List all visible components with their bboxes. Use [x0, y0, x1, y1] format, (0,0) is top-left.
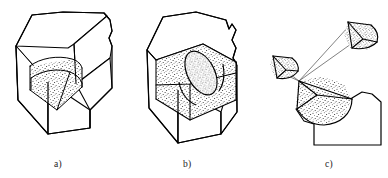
figure-root: a) b) c) [0, 0, 388, 178]
panel-caption-c: c) [325, 160, 333, 170]
panel-c-drawing [268, 20, 382, 145]
panel-a-drawing [16, 12, 112, 134]
panel-b-drawing [147, 12, 242, 143]
panel-caption-a: a) [54, 160, 62, 170]
figure-drawing [0, 0, 388, 178]
panel-caption-b: b) [183, 160, 191, 170]
